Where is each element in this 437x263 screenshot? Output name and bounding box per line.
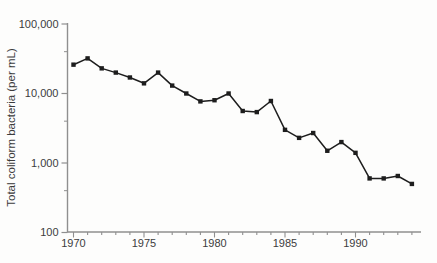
y-tick-label: 1,000 (31, 157, 59, 169)
data-point-1992 (382, 176, 386, 180)
trend-line (74, 58, 412, 183)
data-point-1983 (255, 110, 259, 114)
x-tick-label: 1970 (61, 237, 85, 249)
data-point-1981 (226, 91, 230, 95)
data-point-1988 (325, 149, 329, 153)
data-point-1974 (128, 75, 132, 79)
data-point-1975 (142, 81, 146, 85)
x-tick-label: 1980 (202, 237, 226, 249)
data-point-1986 (297, 136, 301, 140)
x-tick-label: 1990 (343, 237, 367, 249)
chart-canvas: 100,00010,0001,0001001970197519801985199… (0, 0, 437, 263)
data-point-1982 (241, 109, 245, 113)
data-point-1990 (353, 151, 357, 155)
data-point-1978 (184, 91, 188, 95)
data-point-1976 (156, 70, 160, 74)
data-point-1984 (269, 99, 273, 103)
data-point-1980 (212, 98, 216, 102)
x-tick-label: 1975 (132, 237, 156, 249)
y-tick-label: 100 (40, 226, 58, 238)
data-point-1973 (114, 70, 118, 74)
data-point-1970 (71, 62, 75, 66)
coliform-trend-figure: 100,00010,0001,0001001970197519801985199… (0, 0, 437, 263)
y-tick-label: 100,000 (19, 18, 59, 30)
data-point-1991 (367, 176, 371, 180)
data-point-1985 (283, 128, 287, 132)
y-tick-label: 10,000 (25, 87, 59, 99)
data-point-1977 (170, 83, 174, 87)
data-point-1987 (311, 131, 315, 135)
data-point-1979 (198, 99, 202, 103)
data-point-1971 (85, 56, 89, 60)
x-tick-label: 1985 (273, 237, 297, 249)
y-axis-title: Total coliform bacteria (per mL) (5, 48, 17, 207)
data-point-1994 (410, 182, 414, 186)
data-point-1993 (396, 174, 400, 178)
data-point-1972 (100, 66, 104, 70)
data-point-1989 (339, 140, 343, 144)
